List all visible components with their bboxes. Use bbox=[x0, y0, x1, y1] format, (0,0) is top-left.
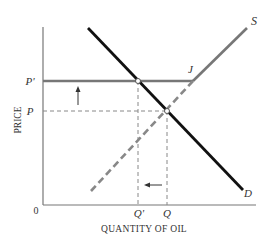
supply-curve-solid bbox=[193, 28, 247, 81]
intersection-marker-p-prime bbox=[136, 79, 141, 84]
x-axis-title: QUANTITY OF OIL bbox=[101, 224, 187, 234]
supply-label: S bbox=[251, 14, 257, 28]
origin-label: 0 bbox=[34, 205, 39, 216]
intersection-marker-equilibrium bbox=[165, 109, 170, 114]
q-prime-label: Q' bbox=[134, 207, 145, 219]
kink-label-j: J bbox=[188, 63, 194, 75]
up-arrow-icon bbox=[76, 86, 81, 105]
left-arrow-icon bbox=[144, 183, 162, 188]
supply-curve-dashed bbox=[91, 81, 193, 191]
p-label: P bbox=[26, 105, 34, 117]
q-label: Q bbox=[163, 207, 171, 219]
y-axis-title: PRICE bbox=[13, 106, 23, 133]
supply-demand-diagram: P' P 0 Q' Q QUANTITY OF OIL PRICE S D J bbox=[0, 0, 271, 247]
demand-label: D bbox=[243, 187, 252, 199]
p-prime-label: P' bbox=[24, 75, 35, 87]
